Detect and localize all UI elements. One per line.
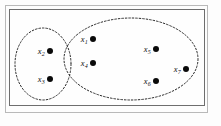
data-point-label-x3: x3 (38, 75, 45, 84)
data-point-label-x6: x6 (144, 77, 151, 86)
data-point-marker-x5 (153, 46, 159, 52)
data-point-marker-x4 (90, 60, 96, 66)
data-point-marker-x2 (47, 48, 53, 54)
data-point-marker-x3 (47, 76, 53, 82)
cluster-diagram-figure: x1x2x3x4x5x6x7 (0, 0, 221, 126)
data-point-marker-x1 (90, 36, 96, 42)
data-point-x6: x6 (144, 77, 159, 86)
ellipse-layer (0, 0, 221, 126)
label-subscript: 5 (148, 49, 151, 55)
data-point-label-x5: x5 (144, 45, 151, 54)
data-point-label-x7: x7 (174, 65, 181, 74)
data-point-x5: x5 (144, 45, 159, 54)
data-point-label-x4: x4 (81, 59, 88, 68)
data-point-marker-x7 (183, 66, 189, 72)
label-subscript: 2 (42, 51, 45, 57)
label-subscript: 1 (85, 39, 88, 45)
data-point-x3: x3 (38, 75, 53, 84)
data-point-x2: x2 (38, 47, 53, 56)
label-subscript: 7 (178, 69, 181, 75)
data-point-marker-x6 (153, 78, 159, 84)
cluster-boundary-left (15, 28, 71, 100)
label-subscript: 6 (148, 81, 151, 87)
data-point-x1: x1 (81, 35, 96, 44)
data-point-label-x2: x2 (38, 47, 45, 56)
label-subscript: 4 (85, 63, 88, 69)
data-point-x4: x4 (81, 59, 96, 68)
data-point-x7: x7 (174, 65, 189, 74)
data-point-label-x1: x1 (81, 35, 88, 44)
label-subscript: 3 (42, 79, 45, 85)
